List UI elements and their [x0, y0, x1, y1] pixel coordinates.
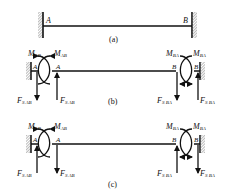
label-a-wall: A — [32, 63, 38, 71]
right-wall-hatch — [200, 135, 205, 153]
caption-c: (c) — [108, 180, 117, 189]
moment-arc-beam-a — [38, 129, 50, 157]
moment-arc-beam-b — [180, 129, 192, 157]
panel-c: A A MAB MAB FS AB FS AB B B MBA MBA FS B… — [16, 122, 216, 189]
label-b-wall: B — [194, 136, 199, 144]
shear-label-beam-b: FS BA — [156, 169, 173, 178]
moment-label-wall-b: MBA — [192, 49, 207, 58]
fixed-beam-diagram: A B (a) A A MAB MAB FS AB FS AB B B — [0, 0, 230, 191]
shear-label-beam-a: FS AB — [59, 169, 75, 178]
shear-label-wall-b: FS BA — [199, 169, 216, 178]
moment-label-wall-b: MBA — [192, 122, 207, 131]
right-wall-hatch — [200, 62, 205, 80]
shear-label-wall-b: FS BA — [199, 96, 216, 105]
moment-arc-wall-b — [180, 129, 192, 157]
shear-label-beam-a: FS AB — [59, 96, 75, 105]
label-b-beam: B — [172, 136, 177, 144]
shear-label-wall-a: FS AB — [16, 169, 32, 178]
moment-label-beam-b: MBA — [165, 49, 180, 58]
label-a-beam: A — [55, 136, 61, 144]
moment-arc-beam-a — [38, 56, 50, 84]
moment-label-beam-a: MAB — [53, 49, 67, 58]
label-a-beam: A — [55, 63, 61, 71]
label-b: B — [183, 16, 188, 25]
shear-label-wall-a: FS AB — [16, 96, 32, 105]
label-b-beam: B — [172, 63, 177, 71]
moment-arc-wall-a — [38, 129, 50, 157]
moment-label-wall-a: MAB — [27, 49, 41, 58]
label-a-wall: A — [32, 136, 38, 144]
moment-arc-wall-b — [180, 56, 192, 84]
caption-a: (a) — [109, 35, 118, 44]
right-wall-hatch — [192, 12, 197, 38]
moment-label-beam-b: MBA — [165, 122, 180, 131]
label-b-wall: B — [194, 63, 199, 71]
shear-label-beam-b: FS BA — [156, 96, 173, 105]
label-a: A — [45, 16, 51, 25]
panel-b: A A MAB MAB FS AB FS AB B B MBA MBA FS B… — [16, 49, 216, 106]
caption-b: (b) — [108, 97, 118, 106]
panel-a: A B (a) — [38, 12, 197, 44]
moment-label-wall-a: MAB — [27, 122, 41, 131]
moment-arc-wall-a — [38, 56, 50, 84]
moment-arc-beam-b — [180, 56, 192, 84]
moment-label-beam-a: MAB — [53, 122, 67, 131]
